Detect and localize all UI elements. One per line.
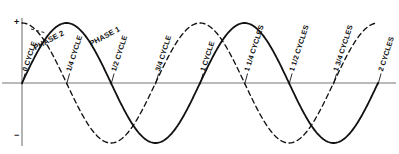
waveform-figure: 0 CYCLE1/4 CYCLE1/2 CYCLE3/4 CYCLE1 CYCL… <box>0 0 399 154</box>
waveform-plot <box>0 0 399 154</box>
positive-sign-label: + <box>14 18 19 27</box>
negative-sign-label: − <box>14 131 19 140</box>
